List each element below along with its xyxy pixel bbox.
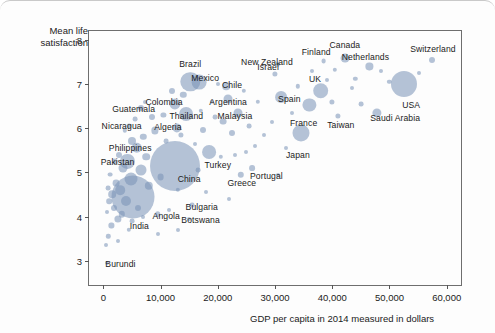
bubble-point xyxy=(256,99,260,103)
point-label-france: France xyxy=(290,118,317,128)
bubble-point xyxy=(104,243,108,247)
bubble-point xyxy=(204,190,208,194)
y-tick-label: 6 xyxy=(77,123,82,134)
bubble-point xyxy=(124,172,137,185)
bubble-point xyxy=(106,198,112,204)
bubble-usa xyxy=(391,71,417,97)
bubble-point xyxy=(114,215,121,222)
bubble-point xyxy=(290,111,294,115)
bubble-point xyxy=(105,210,109,214)
point-label-guatemala: Guatemala xyxy=(112,104,155,114)
y-tick-label: 5 xyxy=(77,167,82,178)
point-label-argentina: Argentina xyxy=(209,97,247,107)
figure-panel: Mean life satisfaction 345678 010,00020,… xyxy=(0,0,495,333)
point-label-india: India xyxy=(130,221,149,231)
point-label-pakistan: Pakistan xyxy=(101,157,135,167)
x-tick-label: 0 xyxy=(101,292,106,303)
x-tick-label: 30,000 xyxy=(260,292,289,303)
bubble-point xyxy=(106,234,110,238)
point-label-spain: Spain xyxy=(278,94,300,104)
bubble-point xyxy=(244,150,248,154)
point-label-new-zealand: New Zealand xyxy=(241,57,293,67)
bubble-point xyxy=(379,69,383,73)
bubble-point xyxy=(178,132,183,137)
bubble-point xyxy=(116,185,126,195)
bubble-point xyxy=(353,77,357,81)
y-tick-mark xyxy=(85,261,89,262)
bubble-point xyxy=(358,101,363,106)
point-label-botswana: Botswana xyxy=(181,215,220,225)
bubble-india xyxy=(112,175,155,218)
bubble-point xyxy=(233,153,237,157)
point-label-turkey: Turkey xyxy=(204,160,231,170)
bubble-point xyxy=(213,115,218,120)
point-label-algeria: Algeria xyxy=(154,122,181,132)
x-tick-mark xyxy=(389,285,390,289)
bubble-uk xyxy=(313,83,329,99)
bubble-netherlands xyxy=(366,63,373,70)
bubble-point xyxy=(417,71,421,75)
bubble-taiwan xyxy=(335,114,340,119)
bubble-point xyxy=(218,155,222,159)
bubble-point xyxy=(157,173,164,180)
x-tick-label: 40,000 xyxy=(318,292,347,303)
bubble-point xyxy=(164,139,169,144)
y-tick-mark xyxy=(85,172,89,173)
x-tick-mark xyxy=(161,285,162,289)
x-tick-label: 10,000 xyxy=(146,292,175,303)
bubble-point xyxy=(247,124,252,129)
bubble-point xyxy=(135,165,146,176)
bubble-point xyxy=(229,130,235,136)
bubble-point xyxy=(156,232,160,236)
y-tick-label: 7 xyxy=(77,79,82,90)
bubble-point xyxy=(149,114,155,120)
point-label-chile: Chile xyxy=(222,80,242,90)
bubble-point xyxy=(142,153,150,161)
point-label-usa: USA xyxy=(402,100,420,110)
bubble-point xyxy=(121,196,131,206)
bubble-point xyxy=(195,168,200,173)
bubble-point xyxy=(270,120,274,124)
bubble-switzerland xyxy=(429,57,435,63)
bubble-point xyxy=(333,68,337,72)
bubble-israel xyxy=(272,72,277,77)
bubble-point xyxy=(105,185,110,190)
bubble-point xyxy=(227,197,231,201)
bubble-point xyxy=(176,188,180,192)
bubble-point xyxy=(145,181,153,189)
bubble-point xyxy=(135,205,141,211)
bubble-point xyxy=(116,239,120,243)
x-tick-label: 20,000 xyxy=(203,292,232,303)
bubble-finland xyxy=(321,59,326,64)
bubble-point xyxy=(169,88,175,94)
bubble-point xyxy=(200,127,206,133)
x-tick-mark xyxy=(275,285,276,289)
y-tick-label: 8 xyxy=(77,34,82,45)
point-label-mexico: Mexico xyxy=(191,73,219,83)
x-tick-label: 60,000 xyxy=(432,292,461,303)
bubble-point xyxy=(330,99,335,104)
point-label-burundi: Burundi xyxy=(105,259,135,269)
point-label-china: China xyxy=(178,174,201,184)
bubble-point xyxy=(111,205,117,211)
bubble-point xyxy=(118,211,124,217)
point-label-uk: UK xyxy=(309,74,321,84)
x-tick-label: 50,000 xyxy=(375,292,404,303)
y-tick-mark xyxy=(85,128,89,129)
bubble-point xyxy=(262,133,266,137)
bubble-point xyxy=(387,80,391,84)
point-label-malaysia: Malaysia xyxy=(218,111,253,121)
bubble-point xyxy=(296,84,300,88)
bubble-greece xyxy=(237,171,243,177)
point-label-canada: Canada xyxy=(329,40,360,50)
point-label-netherlands: Netherlands xyxy=(342,52,389,62)
bubble-france xyxy=(303,99,316,112)
y-tick-mark xyxy=(85,84,89,85)
bubble-point xyxy=(193,142,197,146)
y-tick-label: 4 xyxy=(77,211,82,222)
plot-area: 345678 010,00020,00030,00040,00050,00060… xyxy=(88,30,462,286)
point-label-thailand: Thailand xyxy=(169,111,203,121)
bubble-point xyxy=(161,112,166,117)
x-tick-mark xyxy=(103,285,104,289)
point-label-bulgaria: Bulgaria xyxy=(186,202,218,212)
